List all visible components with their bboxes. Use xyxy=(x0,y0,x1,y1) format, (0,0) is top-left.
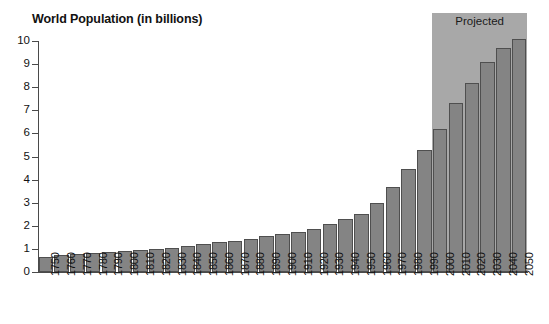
x-axis-tick-label: 1820 xyxy=(161,252,172,276)
bar xyxy=(496,48,511,272)
y-axis-tick xyxy=(32,249,38,250)
x-axis-tick-label: 2050 xyxy=(524,252,535,276)
bar xyxy=(512,39,527,272)
x-axis-tick-label: 1770 xyxy=(82,252,93,276)
y-axis-tick xyxy=(32,180,38,181)
x-axis-tick-label: 1750 xyxy=(50,252,61,276)
x-axis-tick-label: 1780 xyxy=(98,252,109,276)
x-axis-tick-label: 1760 xyxy=(66,252,77,276)
y-axis-tick-label: 6 xyxy=(6,127,30,139)
chart-title: World Population (in billions) xyxy=(32,12,202,26)
y-axis-tick-label: 8 xyxy=(6,81,30,93)
bar xyxy=(449,103,464,272)
x-axis-tick-label: 1910 xyxy=(303,252,314,276)
bar xyxy=(465,83,480,272)
x-axis-tick-label: 2000 xyxy=(445,252,456,276)
x-axis-tick-label: 1980 xyxy=(413,252,424,276)
plot-area: Projected xyxy=(38,41,527,272)
x-axis-tick-label: 1970 xyxy=(397,252,408,276)
x-axis-tick-label: 1900 xyxy=(287,252,298,276)
x-axis-tick-label: 1840 xyxy=(192,252,203,276)
x-axis-tick-label: 1960 xyxy=(382,252,393,276)
x-axis-tick-label: 1790 xyxy=(113,252,124,276)
x-axis-tick-label: 1920 xyxy=(319,252,330,276)
y-axis-tick-label: 0 xyxy=(6,266,30,278)
y-axis-tick-label: 1 xyxy=(6,243,30,255)
x-axis-tick-label: 2020 xyxy=(476,252,487,276)
x-axis-tick-label: 2030 xyxy=(492,252,503,276)
bar xyxy=(433,129,448,272)
x-axis-tick-label: 1950 xyxy=(366,252,377,276)
y-axis-tick-label: 10 xyxy=(6,35,30,47)
x-axis-tick-label: 1880 xyxy=(255,252,266,276)
x-axis-tick-label: 2010 xyxy=(461,252,472,276)
y-axis-tick-label: 4 xyxy=(6,174,30,186)
y-axis-tick-label: 5 xyxy=(6,151,30,163)
x-axis-tick-label: 1800 xyxy=(129,252,140,276)
y-axis-tick xyxy=(32,87,38,88)
y-axis-labels: 109876543210 xyxy=(0,0,30,324)
y-axis-tick xyxy=(32,110,38,111)
y-axis-tick-label: 2 xyxy=(6,220,30,232)
y-axis-tick xyxy=(32,133,38,134)
x-axis-tick-label: 1940 xyxy=(350,252,361,276)
bar-chart: World Population (in billions) 109876543… xyxy=(0,0,549,324)
x-axis-tick-label: 1930 xyxy=(334,252,345,276)
y-axis-tick xyxy=(32,41,38,42)
x-axis-tick-label: 1860 xyxy=(224,252,235,276)
x-axis-tick-label: 1850 xyxy=(208,252,219,276)
x-axis-tick-label: 1990 xyxy=(429,252,440,276)
y-axis-tick-label: 3 xyxy=(6,197,30,209)
y-axis-tick xyxy=(32,272,38,273)
y-axis-tick xyxy=(32,157,38,158)
projected-region-label: Projected xyxy=(432,15,527,27)
x-axis-tick-label: 1870 xyxy=(240,252,251,276)
x-axis-tick-label: 2040 xyxy=(508,252,519,276)
y-axis-tick xyxy=(32,64,38,65)
y-axis-tick-label: 7 xyxy=(6,104,30,116)
y-axis-tick xyxy=(32,203,38,204)
bar xyxy=(480,62,495,272)
y-axis-tick-label: 9 xyxy=(6,58,30,70)
x-axis-tick-label: 1830 xyxy=(177,252,188,276)
x-axis-tick-label: 1890 xyxy=(271,252,282,276)
x-axis-tick-label: 1810 xyxy=(145,252,156,276)
y-axis-tick xyxy=(32,226,38,227)
